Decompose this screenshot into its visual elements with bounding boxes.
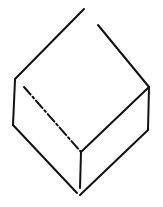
edge-top-right: [98, 25, 149, 87]
edge-bottom-right: [80, 130, 148, 195]
edge-inner-right: [81, 87, 149, 152]
edge-right-vertical: [148, 87, 149, 130]
edge-top-left: [15, 9, 84, 79]
edge-center-vertical: [80, 152, 81, 188]
cube-drawing: [0, 0, 163, 207]
edge-left-vertical: [13, 80, 15, 125]
edge-bottom-left: [13, 125, 77, 193]
edge-inner-left: [24, 87, 81, 152]
